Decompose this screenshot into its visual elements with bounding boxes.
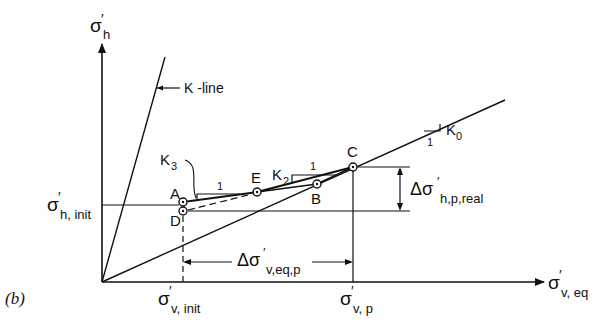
delta-h-dimension: Δσ ′ h,p,real: [397, 167, 483, 211]
svg-text:C: C: [347, 143, 358, 160]
panel-label: (b): [5, 289, 25, 308]
svg-text:′: ′: [263, 245, 266, 260]
svg-text:Δσ: Δσ: [237, 250, 260, 270]
svg-text:′: ′: [437, 174, 440, 189]
svg-text:h,p,real: h,p,real: [440, 191, 483, 206]
svg-text:K: K: [160, 151, 170, 168]
svg-text:K -line: K -line: [184, 80, 224, 96]
svg-text:′: ′: [101, 11, 104, 27]
stress-paths: [183, 167, 353, 210]
x-tick-label-v-init: σ ′ v, init: [158, 283, 201, 316]
svg-text:v, p: v, p: [353, 301, 373, 316]
y-axis-label: σ ′ h: [90, 11, 110, 42]
point-b: B: [311, 180, 321, 207]
k-line: K -line: [102, 57, 224, 282]
svg-text:A: A: [170, 185, 180, 202]
svg-text:0: 0: [456, 130, 462, 142]
svg-text:′: ′: [169, 283, 172, 299]
svg-text:3: 3: [171, 160, 177, 172]
svg-text:v, init: v, init: [171, 301, 201, 316]
point-d: D: [170, 207, 187, 229]
point-c: C: [347, 143, 358, 171]
svg-text:Δσ: Δσ: [410, 179, 433, 199]
delta-v-dimension: Δσ ′ v,eq,p: [183, 245, 353, 277]
svg-text:B: B: [311, 190, 321, 207]
svg-text:E: E: [251, 169, 261, 186]
svg-text:v, eq: v, eq: [561, 285, 588, 300]
svg-text:1: 1: [217, 180, 223, 192]
point-a: A: [170, 185, 187, 206]
svg-text:1: 1: [310, 160, 316, 172]
svg-text:′: ′: [351, 283, 354, 299]
svg-text:h: h: [103, 27, 110, 42]
points: A D E B C: [170, 143, 358, 229]
svg-text:K: K: [272, 166, 282, 183]
stress-path-diagram: σ ′ h σ ′ v, eq K -line 1 K 0: [0, 0, 613, 332]
x-axis-label: σ ′ v, eq: [548, 267, 588, 300]
svg-text:D: D: [170, 212, 181, 229]
point-e: E: [251, 169, 261, 196]
y-tick-label-h-init: σ ′ h, init: [47, 189, 91, 222]
svg-text:′: ′: [58, 189, 61, 205]
svg-text:1: 1: [427, 136, 433, 148]
svg-text:v,eq,p: v,eq,p: [266, 262, 300, 277]
svg-text:K: K: [446, 121, 456, 138]
x-tick-label-v-p: σ ′ v, p: [340, 283, 373, 316]
svg-text:h, init: h, init: [60, 207, 91, 222]
svg-text:2: 2: [283, 175, 289, 187]
svg-text:′: ′: [559, 267, 562, 283]
